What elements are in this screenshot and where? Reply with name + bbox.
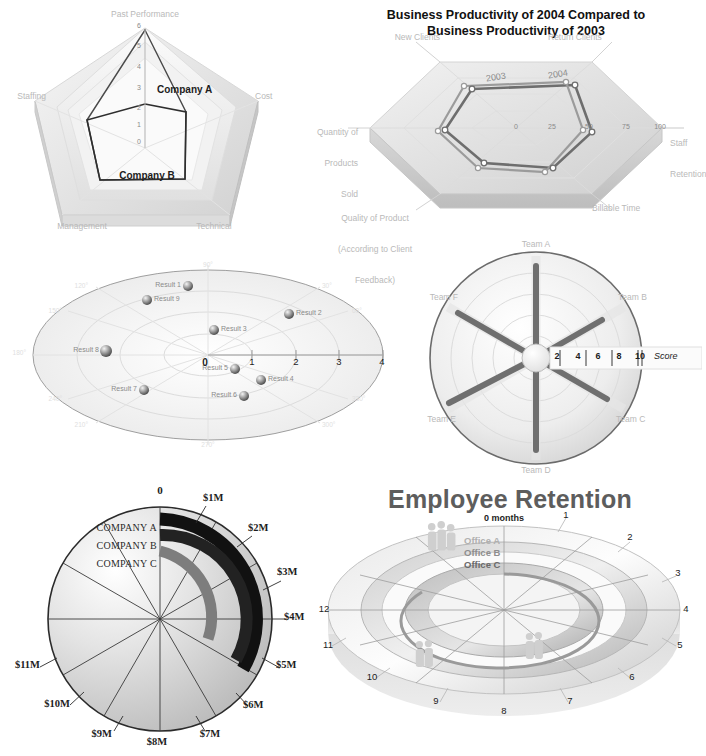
point-label-result-4: Result 4 [268,375,294,383]
angle-tick-30: 30° [322,282,332,289]
radial-tick-0: 0 [202,357,208,368]
tick-3: 3 [137,84,141,92]
quantity-line-2: Products [298,158,358,168]
tick-label-9: 9 [433,696,438,706]
tick-label-10: 10 [367,672,378,682]
chart-business-productivity-radar: Business Productivity of 2004 Compared t… [340,0,702,245]
quantity-line-3: Sold [298,189,358,199]
radial-tick-2: 2 [293,357,298,367]
series-label-company-b: Company B [119,170,175,181]
tick-label-1: 1 [563,510,568,520]
legend-office-a: Office A [464,536,500,546]
chart-team-score-radar: Team A Team B Team C Team D Team E Team … [390,240,702,480]
tick-label-11m: $11M [15,659,40,671]
revenue-spiral-svg [0,478,330,756]
score-tick-6: 6 [595,352,600,362]
tick-label-5m: $5M [276,659,296,671]
tick-1: 1 [137,121,141,129]
tick-label-4m: $4M [284,611,304,623]
axis-label-new-clients: New Clients [395,33,440,42]
point-label-result-6: Result 6 [211,391,237,399]
tick-6: 6 [137,22,141,30]
score-tick-10: 10 [635,352,645,362]
tick-label-7: 7 [567,696,572,706]
tick-label-3m: $3M [277,566,297,578]
tick-label-0: 0 [157,484,163,496]
tick-2: 2 [137,104,141,112]
axis-label-staff-retention: Staff Retention [670,118,706,200]
score-tick-8: 8 [616,352,621,362]
tick-25: 25 [548,123,556,131]
legend-company-a: COMPANY A [96,522,157,533]
point-label-result-9: Result 9 [154,295,180,303]
axis-label-team-b: Team B [618,293,647,302]
tick-label-4: 4 [683,604,688,614]
score-tick-2: 2 [554,352,559,362]
angle-tick-270: 270° [201,441,214,448]
tick-label-10m: $10M [44,698,70,710]
tick-5: 5 [137,42,141,50]
axis-label-staffing: Staffing [17,92,46,101]
tick-label-8: 8 [501,706,506,716]
angle-tick-150: 120° [75,282,88,289]
tick-label-11: 11 [323,640,333,650]
angle-tick-180: 180° [13,349,26,356]
point-label-result-7: Result 7 [111,385,137,393]
tick-label-7m: $7M [200,728,220,740]
point-label-result-1: Result 1 [155,281,181,289]
radial-tick-3: 3 [336,357,341,367]
angle-tick-300: 300° [322,421,335,428]
angle-tick-90: 90° [203,261,213,268]
tick-50: 50 [585,123,593,131]
series-label-company-a: Company A [157,84,212,95]
tick-label-6: 6 [629,672,634,682]
tick-100: 100 [654,123,666,131]
tick-label-3: 3 [675,568,680,578]
legend-company-b: COMPANY B [96,540,157,551]
chart-company-revenue-spiral: 0 $1M $2M $3M $4M $5M $6M $7M $8M $9M $1… [0,478,330,756]
staff-line-1: Staff [670,138,706,148]
chart-employee-retention: Employee Retention [318,480,702,756]
radial-tick-4: 4 [379,357,384,367]
tick-label-12: 12 [319,604,330,614]
tick-label-6m: $6M [243,699,263,711]
quantity-line-1: Quantity of [298,127,358,137]
axis-label-team-f: Team F [430,293,458,302]
legend-office-b: Office B [464,548,500,558]
angle-tick-60: 60° [352,307,362,314]
tick-75: 75 [622,123,630,131]
tick-label-1m: $1M [203,492,223,504]
axis-label-cost: Cost [255,92,272,101]
staff-line-2: Retention [670,169,706,179]
angle-tick-120: 150° [49,307,62,314]
chart-polar-results-scatter: Result 1 Result 9 Result 2 Result 3 Resu… [0,245,400,480]
tick-0: 0 [514,123,518,131]
angle-tick-330: 330° [352,395,365,402]
tick-label-0-months: 0 months [484,514,524,524]
tick-label-2: 2 [627,532,632,542]
axis-label-team-c: Team C [616,415,645,424]
tick-label-8m: $8M [147,736,167,748]
score-axis-label: Score [654,352,678,362]
angle-tick-210: 210° [75,421,88,428]
axis-label-team-a: Team A [522,240,550,249]
axis-label-team-d: Team D [521,466,550,475]
axis-label-return-clients: Return Clients [548,33,602,42]
axis-label-quantity-products-sold: Quantity of Products Sold [298,107,358,219]
tick-label-2m: $2M [248,522,268,534]
point-label-result-3: Result 3 [221,325,247,333]
angle-tick-240: 240° [49,395,62,402]
axis-label-technical: Technical [196,222,231,231]
legend-company-c: COMPANY C [96,558,157,569]
tick-4: 4 [137,63,141,71]
tick-0: 0 [137,138,141,146]
axis-label-billable-time: Billable Time [592,204,640,213]
tick-label-9m: $9M [92,728,112,740]
axis-label-past-performance: Past Performance [111,10,179,19]
point-label-result-8: Result 8 [73,346,99,354]
point-label-result-2: Result 2 [296,309,322,317]
radial-tick-1: 1 [249,357,254,367]
axis-label-team-e: Team E [427,415,456,424]
tick-label-5: 5 [677,640,682,650]
axis-label-management: Management [57,222,107,231]
